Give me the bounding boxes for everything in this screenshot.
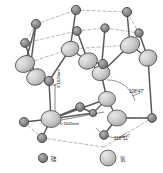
oxygen-atom [108, 110, 127, 126]
silicon-atom [73, 27, 82, 36]
bond-angle-lower-label: 110°51' [114, 137, 128, 142]
bond-length-horizontal-label: 0.1645nm [60, 122, 79, 126]
oxygen-atom [99, 92, 116, 107]
bond-angle-upper-label: 108°47' [129, 90, 144, 95]
oxygen-atom [59, 39, 81, 59]
silicon-atom [21, 39, 30, 48]
legend-label-oxygen: 氧 [120, 155, 126, 163]
silicon-atom [122, 7, 131, 16]
silicon-atom [100, 131, 109, 140]
silicon-atom [71, 5, 80, 14]
silicon-atom [148, 114, 157, 123]
silicon-atom [44, 76, 53, 85]
silicon-atom [98, 59, 107, 68]
silicon-atom [89, 109, 96, 116]
silicon-atom [135, 29, 143, 37]
silicon-atom [19, 117, 28, 126]
crystal-structure-svg [0, 0, 163, 173]
oxygen-atom [41, 111, 61, 128]
silicon-atom [31, 19, 40, 28]
legend-oxygen-marker [100, 150, 116, 166]
legend-label-silicon: 硅 [51, 155, 57, 163]
silicon-atom [76, 103, 85, 112]
silicon-atom [37, 133, 46, 142]
silicon-atom [101, 24, 109, 32]
oxygen-atom [136, 47, 159, 69]
legend-silicon-marker [38, 153, 47, 162]
bond-length-vertical-label: 0.1620nm [57, 69, 61, 88]
